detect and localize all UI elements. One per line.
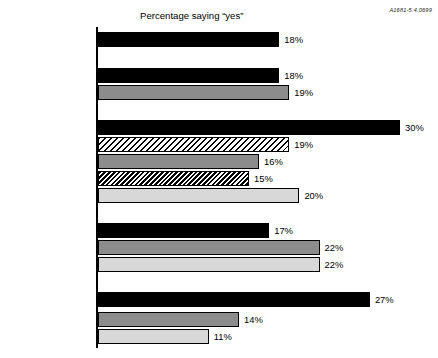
bar-value-label: 16%	[264, 154, 283, 169]
bar	[98, 154, 259, 169]
bar-value-label: 19%	[294, 137, 313, 152]
bar-value-label: 22%	[325, 240, 344, 255]
bar-value-label: 30%	[405, 120, 424, 135]
bar-value-label: 22%	[325, 257, 344, 272]
bar-value-label: 18%	[284, 68, 303, 83]
bar-value-label: 14%	[244, 312, 263, 327]
bar	[98, 68, 279, 83]
bar	[98, 120, 400, 135]
bar-chart-figure: A1681-5.4.0699 Percentage saying “yes” T…	[0, 0, 438, 358]
bar	[98, 85, 289, 100]
bar	[98, 137, 289, 152]
bar	[98, 171, 249, 186]
bar	[98, 188, 299, 203]
bar-value-label: 17%	[274, 223, 293, 238]
bar	[98, 329, 209, 344]
bar-value-label: 11%	[214, 329, 232, 344]
bar	[98, 312, 239, 327]
bar	[98, 240, 320, 255]
bar-value-label: 27%	[375, 292, 394, 307]
bar	[98, 257, 320, 272]
bar-value-label: 19%	[294, 85, 313, 100]
bar-value-label: 15%	[254, 171, 273, 186]
bar-value-label: 20%	[304, 188, 323, 203]
bar	[98, 292, 370, 307]
plot-area: Total18%Male18%Female19%16–2030%21–2919%…	[0, 0, 438, 358]
bar-value-label: 18%	[284, 32, 303, 47]
bar	[98, 223, 269, 238]
bar	[98, 32, 279, 47]
